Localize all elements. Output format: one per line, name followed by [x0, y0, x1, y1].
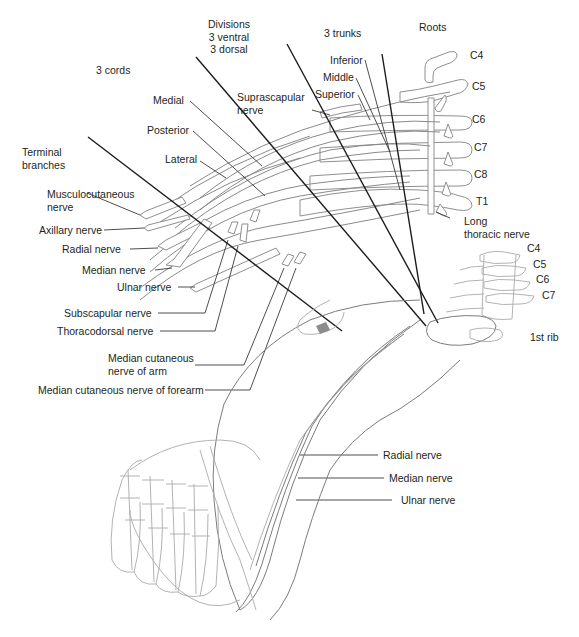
- divisions-ventral: 3 ventral: [208, 31, 250, 44]
- terminal-branches-line1: Terminal: [22, 146, 65, 159]
- musculocutaneous-nerve-label: Musculocutaneous nerve: [47, 188, 135, 213]
- terminal-branches-line2: branches: [22, 159, 65, 172]
- root-label-c8: C8: [474, 168, 487, 181]
- cervical-vertebrae: [426, 251, 534, 345]
- arm-radial-nerve-label: Radial nerve: [383, 449, 442, 462]
- root-label-c4: C4: [470, 49, 483, 62]
- long-thoracic-nerve-label: Long thoracic nerve: [464, 215, 530, 240]
- trunk-label-inferior: Inferior: [330, 54, 363, 67]
- roots-header: Roots: [419, 21, 446, 34]
- terminal-branches-header: Terminal branches: [22, 146, 65, 171]
- musculocutaneous-line2: nerve: [47, 201, 135, 214]
- cords-header: 3 cords: [96, 64, 130, 77]
- first-rib-label: 1st rib: [530, 331, 559, 344]
- musculocutaneous-line1: Musculocutaneous: [47, 188, 135, 201]
- median-cutaneous-arm-line2: nerve of arm: [108, 365, 194, 378]
- median-cutaneous-arm-line1: Median cutaneous: [108, 352, 194, 365]
- suprascapular-line1: Suprascapular: [237, 91, 305, 104]
- long-thoracic-line2: thoracic nerve: [464, 228, 530, 241]
- subscapular-nerve-label: Subscapular nerve: [64, 307, 152, 320]
- median-cutaneous-nerve-forearm-label: Median cutaneous nerve of forearm: [38, 384, 204, 397]
- median-nerve-label: Median nerve: [82, 264, 146, 277]
- trunk-label-middle: Middle: [323, 71, 354, 84]
- median-cutaneous-nerve-arm-label: Median cutaneous nerve of arm: [108, 352, 194, 377]
- divisions-dorsal: 3 dorsal: [208, 43, 250, 56]
- thoracodorsal-nerve-label: Thoracodorsal nerve: [57, 325, 153, 338]
- root-label-c5: C5: [472, 80, 485, 93]
- axillary-nerve-label: Axillary nerve: [39, 224, 102, 237]
- arm-ulnar-nerve-label: Ulnar nerve: [401, 494, 455, 507]
- root-label-c6: C6: [472, 113, 485, 126]
- brachial-plexus-diagram: Divisions 3 ventral 3 dorsal 3 trunks Ro…: [0, 0, 579, 637]
- hand: [111, 440, 260, 597]
- vertebra-label-c7: C7: [542, 289, 555, 302]
- root-label-c7: C7: [474, 141, 487, 154]
- trunks-header: 3 trunks: [324, 27, 361, 40]
- trunk-label-superior: Superior: [315, 88, 355, 101]
- vertebra-label-c6: C6: [536, 273, 549, 286]
- cord-label-lateral: Lateral: [165, 153, 197, 166]
- cord-label-posterior: Posterior: [147, 124, 189, 137]
- long-thoracic-line1: Long: [464, 215, 530, 228]
- vertebra-label-c5: C5: [533, 258, 546, 271]
- suprascapular-nerve-label: Suprascapular nerve: [237, 91, 305, 116]
- ulnar-nerve-label: Ulnar nerve: [117, 281, 171, 294]
- divisions-title: Divisions: [208, 18, 250, 31]
- divisions-header: Divisions 3 ventral 3 dorsal: [208, 18, 250, 56]
- suprascapular-line2: nerve: [237, 104, 305, 117]
- root-label-t1: T1: [476, 195, 488, 208]
- vertebra-label-c4: C4: [527, 242, 540, 255]
- radial-nerve-label: Radial nerve: [62, 243, 121, 256]
- cord-label-medial: Medial: [153, 94, 184, 107]
- arm-median-nerve-label: Median nerve: [389, 472, 453, 485]
